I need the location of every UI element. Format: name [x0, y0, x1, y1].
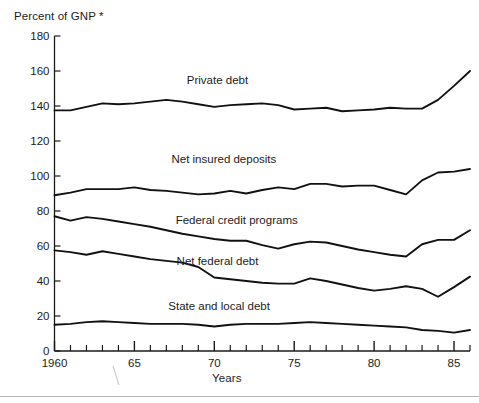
y-tick-label: 120: [30, 135, 49, 147]
series-label: Private debt: [187, 74, 249, 86]
series-label: Federal credit programs: [176, 214, 298, 226]
x-tick-label: 70: [208, 357, 221, 369]
series-line: [55, 169, 471, 195]
y-tick-label: 140: [30, 100, 49, 112]
y-tick-label: 160: [30, 65, 49, 77]
x-axis-ticks: 19606570758085: [42, 341, 470, 369]
x-tick-label: 80: [368, 357, 381, 369]
y-axis-title: Percent of GNP *: [14, 10, 104, 22]
series-label: Net insured deposits: [171, 153, 276, 165]
y-tick-label: 100: [30, 170, 49, 182]
data-series-group: [55, 71, 471, 333]
y-tick-label: 60: [37, 240, 50, 252]
series-line: [55, 250, 471, 296]
x-axis-title: Years: [0, 372, 479, 384]
x-tick-label: 1960: [42, 357, 68, 369]
series-line: [55, 321, 471, 332]
x-tick-label: 75: [288, 357, 301, 369]
line-chart-plot: 020406080100120140160180 19606570758085 …: [0, 0, 479, 403]
series-label: Net federal debt: [177, 255, 260, 267]
y-tick-label: 0: [43, 345, 49, 357]
y-tick-label: 40: [37, 275, 50, 287]
y-tick-label: 20: [37, 310, 50, 322]
series-line: [55, 71, 471, 111]
y-tick-label: 180: [30, 30, 49, 42]
y-axis-ticks: 020406080100120140160180: [30, 30, 60, 357]
x-tick-label: 65: [128, 357, 141, 369]
x-tick-label: 85: [448, 357, 461, 369]
series-label: State and local debt: [168, 300, 270, 312]
y-tick-label: 80: [37, 205, 50, 217]
chart-figure: Percent of GNP * Years 02040608010012014…: [0, 0, 479, 403]
